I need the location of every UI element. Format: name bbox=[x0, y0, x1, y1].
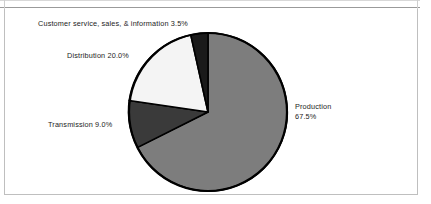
pie-label-distribution: Distribution 20.0% bbox=[67, 51, 129, 61]
pie-label-transmission: Transmission 9.0% bbox=[48, 120, 112, 130]
pie-label-production-percent: 67.5% bbox=[295, 112, 331, 122]
pie-label-customer-service: Customer service, sales, & information 3… bbox=[38, 19, 188, 29]
pie-label-production: Production 67.5% bbox=[295, 102, 331, 122]
pie-chart: Customer service, sales, & information 3… bbox=[0, 0, 431, 204]
pie-chart-svg bbox=[0, 0, 431, 204]
pie-label-production-name: Production bbox=[295, 102, 331, 111]
page-root: Customer service, sales, & information 3… bbox=[0, 0, 431, 204]
